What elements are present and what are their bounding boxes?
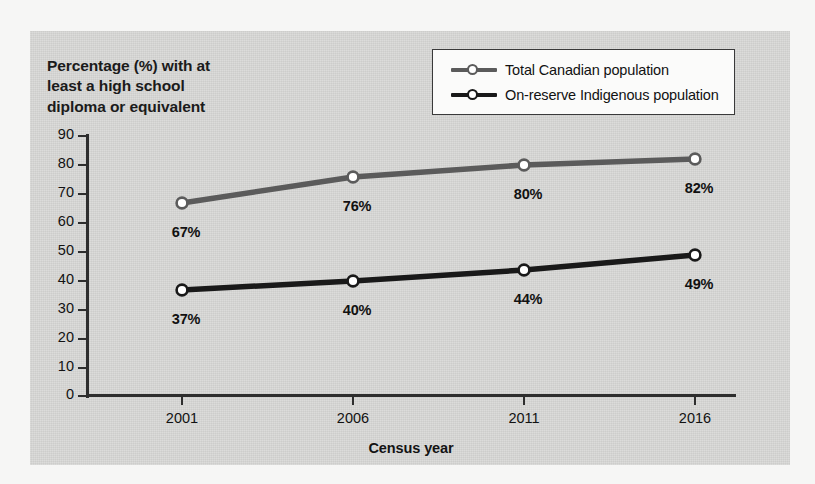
y-tick-0 (78, 395, 87, 397)
y-tick-label-20: 20 (40, 329, 74, 345)
data-label-onreserve-2016: 49% (669, 276, 729, 292)
y-axis-title-line-3: diploma or equivalent (47, 97, 282, 117)
y-tick-40 (78, 280, 87, 282)
legend-label-on-reserve-indigenous-population: On-reserve Indigenous population (505, 87, 719, 103)
data-label-onreserve-2006: 40% (327, 302, 387, 318)
y-axis-title-line-2: least a high school (47, 76, 282, 96)
legend-marker-gray-line-icon (451, 63, 497, 77)
x-tick-2006 (352, 396, 354, 405)
y-tick-60 (78, 222, 87, 224)
data-label-onreserve-2001: 37% (156, 311, 216, 327)
legend-label-total-canadian-population: Total Canadian population (505, 62, 669, 78)
x-axis-line (86, 394, 736, 397)
legend-marker-black-line-icon (451, 88, 497, 102)
y-tick-20 (78, 338, 87, 340)
x-tick-label-2011: 2011 (484, 410, 564, 426)
x-tick-2016 (694, 396, 696, 405)
legend-item-total-canadian-population: Total Canadian population (451, 57, 734, 82)
y-tick-label-0: 0 (40, 386, 74, 402)
x-tick-2011 (523, 396, 525, 405)
y-tick-70 (78, 193, 87, 195)
y-axis-title: Percentage (%) with at least a high scho… (47, 56, 282, 117)
data-label-onreserve-2011: 44% (498, 291, 558, 307)
y-tick-50 (78, 251, 87, 253)
y-tick-label-40: 40 (40, 271, 74, 287)
x-tick-label-2006: 2006 (313, 410, 393, 426)
x-axis-title: Census year (86, 440, 736, 456)
y-tick-80 (78, 164, 87, 166)
data-label-total-2001: 67% (156, 224, 216, 240)
y-axis-title-line-1: Percentage (%) with at (47, 56, 282, 76)
data-label-total-2006: 76% (327, 198, 387, 214)
y-tick-label-90: 90 (40, 126, 74, 142)
y-tick-label-50: 50 (40, 242, 74, 258)
x-tick-label-2016: 2016 (655, 410, 735, 426)
data-label-total-2011: 80% (498, 186, 558, 202)
y-tick-10 (78, 367, 87, 369)
chart-legend: Total Canadian population On-reserve Ind… (432, 49, 735, 115)
y-axis-line (86, 134, 89, 398)
y-tick-90 (78, 135, 87, 137)
y-tick-label-60: 60 (40, 213, 74, 229)
y-tick-label-10: 10 (40, 358, 74, 374)
x-tick-2001 (181, 396, 183, 405)
x-tick-label-2001: 2001 (142, 410, 222, 426)
chart-screenshot: Percentage (%) with at least a high scho… (0, 0, 815, 484)
data-label-total-2016: 82% (669, 180, 729, 196)
y-tick-label-80: 80 (40, 155, 74, 171)
y-tick-label-70: 70 (40, 184, 74, 200)
y-tick-label-30: 30 (40, 300, 74, 316)
y-tick-30 (78, 309, 87, 311)
legend-item-on-reserve-indigenous-population: On-reserve Indigenous population (451, 82, 734, 107)
